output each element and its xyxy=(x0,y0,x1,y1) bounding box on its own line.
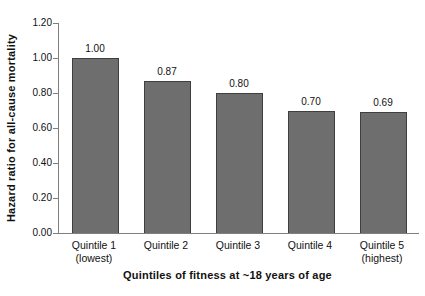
y-tick-mark xyxy=(53,93,58,94)
x-axis-category-labels: Quintile 1 (lowest)Quintile 2Quintile 3Q… xyxy=(58,239,418,265)
y-tick-label: 0.00 xyxy=(18,227,52,239)
bar-quintile-5 xyxy=(360,112,407,233)
y-tick-label: 0.80 xyxy=(18,87,52,99)
y-tick-label: 0.20 xyxy=(18,192,52,204)
y-tick-mark xyxy=(53,233,58,234)
x-category-label-quintile-4: Quintile 4 xyxy=(274,239,346,265)
bar-slot-quintile-3: 0.80 xyxy=(203,23,275,233)
y-tick-label: 0.60 xyxy=(18,122,52,134)
y-tick-mark xyxy=(53,198,58,199)
y-tick-mark xyxy=(53,58,58,59)
y-tick-label: 0.40 xyxy=(18,157,52,169)
bars-container: 1.000.870.800.700.69 xyxy=(59,23,419,233)
y-tick-label: 1.00 xyxy=(18,52,52,64)
y-axis-title: Hazard ratio for all-cause mortality xyxy=(5,34,17,222)
x-axis-title: Quintiles of fitness at ~18 years of age xyxy=(30,269,425,281)
x-category-label-quintile-2: Quintile 2 xyxy=(130,239,202,265)
bar-value-label: 0.87 xyxy=(157,66,176,78)
x-category-label-quintile-3: Quintile 3 xyxy=(202,239,274,265)
bar-slot-quintile-2: 0.87 xyxy=(131,23,203,233)
bar-value-label: 0.69 xyxy=(373,97,392,109)
bar-quintile-4 xyxy=(288,111,335,233)
bar-slot-quintile-5: 0.69 xyxy=(347,23,419,233)
bar-value-label: 0.70 xyxy=(301,96,320,108)
y-tick-mark xyxy=(53,128,58,129)
x-category-label-quintile-5: Quintile 5 (highest) xyxy=(346,239,418,265)
hazard-ratio-bar-chart: Hazard ratio for all-cause mortality 1.0… xyxy=(0,0,425,296)
plot-area: 1.000.870.800.700.69 xyxy=(58,23,419,234)
x-category-label-quintile-1: Quintile 1 (lowest) xyxy=(58,239,130,265)
bar-value-label: 0.80 xyxy=(229,78,248,90)
y-tick-label: 1.20 xyxy=(18,17,52,29)
y-tick-mark xyxy=(53,23,58,24)
bar-quintile-3 xyxy=(216,93,263,233)
bar-slot-quintile-1: 1.00 xyxy=(59,23,131,233)
bar-slot-quintile-4: 0.70 xyxy=(275,23,347,233)
y-tick-mark xyxy=(53,163,58,164)
bar-quintile-2 xyxy=(144,81,191,233)
bar-value-label: 1.00 xyxy=(85,43,104,55)
bar-quintile-1 xyxy=(72,58,119,233)
